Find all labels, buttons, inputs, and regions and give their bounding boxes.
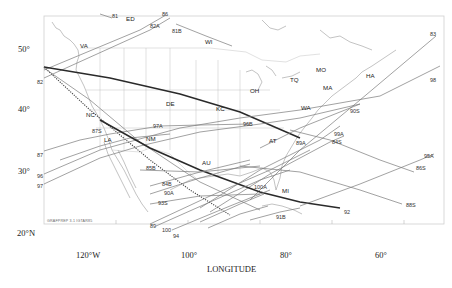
track-label-86: 86 xyxy=(162,11,168,17)
track-label-96B: 96B xyxy=(243,121,253,127)
track-label-83: 83 xyxy=(430,31,436,37)
station-MA: MA xyxy=(323,84,333,91)
track-label-99A: 99A xyxy=(334,131,344,137)
track-label-85B: 85B xyxy=(146,165,156,171)
canada-coast xyxy=(262,20,372,50)
credit-label: GRAFPREP 3.1 IGTAR85 xyxy=(47,219,92,223)
plot-frame xyxy=(44,16,444,224)
station-KC: KC xyxy=(216,105,225,112)
station-LA: LA xyxy=(104,136,112,143)
track-85B xyxy=(140,166,260,172)
station-OH: OH xyxy=(250,87,259,94)
track-label-90S: 90S xyxy=(350,108,360,114)
station-ED: ED xyxy=(126,15,135,22)
track-label-95A: 95A xyxy=(424,153,434,159)
track-label-97: 97 xyxy=(37,183,43,189)
track-label-84B: 84B xyxy=(162,181,172,187)
state-borders xyxy=(86,48,284,176)
station-WA: WA xyxy=(301,104,312,111)
station-TQ: TQ xyxy=(290,76,299,83)
track-label-91B: 91B xyxy=(276,214,286,220)
station-DE: DE xyxy=(166,100,175,107)
x-tick-100: 100° xyxy=(181,250,197,260)
x-axis-title: LONGITUDE xyxy=(207,264,256,274)
station-VA: VA xyxy=(80,42,89,49)
station-AU: AU xyxy=(202,159,211,166)
station-AT: AT xyxy=(269,137,277,144)
track-label-100: 100 xyxy=(162,227,171,233)
x-tick-120w: 120°W xyxy=(76,250,100,260)
station-WI: WI xyxy=(205,38,213,45)
track-label-94: 94 xyxy=(173,233,179,239)
station-NM: NM xyxy=(146,135,156,142)
track-label-82A: 82A xyxy=(150,23,160,29)
track-label-86S: 86S xyxy=(416,165,426,171)
x-tick-80: 80° xyxy=(280,250,292,260)
track-83 xyxy=(250,36,436,200)
track-label-82: 82 xyxy=(37,79,43,85)
track-86 xyxy=(44,15,166,70)
track-label-98: 98 xyxy=(430,77,436,83)
track-label-93S: 93S xyxy=(158,200,168,206)
track-label-92: 92 xyxy=(344,209,350,215)
track-label-97A: 97A xyxy=(153,123,163,129)
track-label-81: 81 xyxy=(112,13,118,19)
track-label-87: 87 xyxy=(37,152,43,158)
x-tick-60: 60° xyxy=(375,250,387,260)
track-label-89: 89 xyxy=(150,223,156,229)
y-tick-20: 20°N xyxy=(17,228,35,238)
track-label-87S: 87S xyxy=(92,128,102,134)
y-tick-30: 30° xyxy=(18,166,30,176)
track-label-100A: 100A xyxy=(254,184,267,190)
track-81B xyxy=(176,24,232,46)
track-label-89A: 89A xyxy=(296,140,306,146)
y-tick-40: 40° xyxy=(18,104,30,114)
station-HA: HA xyxy=(366,72,375,79)
track-91B xyxy=(250,208,300,220)
track-label-90A: 90A xyxy=(164,190,174,196)
track-label-84S: 84S xyxy=(332,139,342,145)
station-NC: NC xyxy=(86,111,95,118)
track-label-88S: 88S xyxy=(406,202,416,208)
x-axis-ticks xyxy=(116,220,404,224)
station-MI: MI xyxy=(282,187,289,194)
track-95A xyxy=(300,154,434,206)
track-label-96: 96 xyxy=(37,173,43,179)
y-tick-50: 50° xyxy=(18,44,30,54)
track-label-81B: 81B xyxy=(172,28,182,34)
station-MO: MO xyxy=(316,66,326,73)
hurricane-track-map: GRAFPREP 3.1 IGTAR85 50° 40° 30° 20°N 12… xyxy=(0,0,452,288)
us-canada-border xyxy=(80,48,320,62)
